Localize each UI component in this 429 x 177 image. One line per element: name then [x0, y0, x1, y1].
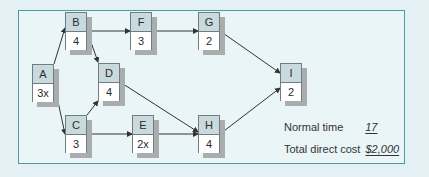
node-b: B 4 [65, 12, 87, 50]
node-label: A [33, 65, 53, 84]
node-duration: 3 [66, 135, 86, 153]
node-f: F 3 [130, 12, 152, 50]
node-h: H 4 [198, 115, 220, 153]
edge-g-i [220, 31, 280, 73]
normal-time-label: Normal time [284, 121, 343, 133]
node-label: G [199, 13, 219, 32]
node-i: I 2 [280, 63, 302, 101]
total-cost-row: Total direct cost $2,000 [284, 143, 399, 155]
node-duration: 4 [66, 32, 86, 50]
node-c: C 3 [65, 115, 87, 153]
total-cost-label: Total direct cost [284, 143, 360, 155]
edge-a-b [54, 28, 65, 64]
node-g: G 2 [198, 12, 220, 50]
node-label: F [131, 13, 151, 32]
normal-time-value: 17 [360, 121, 382, 133]
node-duration: 4 [99, 83, 119, 101]
node-label: C [66, 116, 86, 135]
node-a: A 3x [32, 64, 54, 102]
node-duration: 3x [33, 84, 53, 102]
normal-time-row: Normal time 17 [284, 121, 382, 133]
edge-a-c [54, 83, 65, 134]
node-e: E 2x [132, 115, 154, 153]
node-label: H [199, 116, 219, 135]
node-label: I [281, 64, 301, 83]
node-duration: 2x [133, 135, 153, 153]
node-d: D 4 [98, 63, 120, 101]
node-label: D [99, 64, 119, 83]
node-duration: 2 [199, 32, 219, 50]
node-duration: 4 [199, 135, 219, 153]
edge-c-d [87, 101, 98, 115]
node-label: E [133, 116, 153, 135]
total-cost-value: $2,000 [365, 143, 399, 155]
node-label: B [66, 13, 86, 32]
edge-h-i [220, 88, 280, 134]
node-duration: 3 [131, 32, 151, 50]
edge-b-d [87, 31, 98, 62]
node-duration: 2 [281, 83, 301, 101]
